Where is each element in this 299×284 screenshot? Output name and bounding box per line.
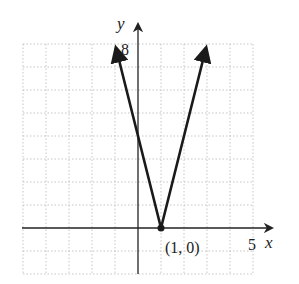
vertex-label: (1, 0) [165,239,200,257]
graph: y 8 x 5 (1, 0) [0,0,299,284]
v-graph-line [116,48,206,228]
y-tick-label-8: 8 [121,41,129,58]
vertex-point [158,225,165,232]
x-axis-label: x [264,233,273,252]
y-axis-label: y [115,14,125,33]
x-tick-label-5: 5 [248,236,256,253]
